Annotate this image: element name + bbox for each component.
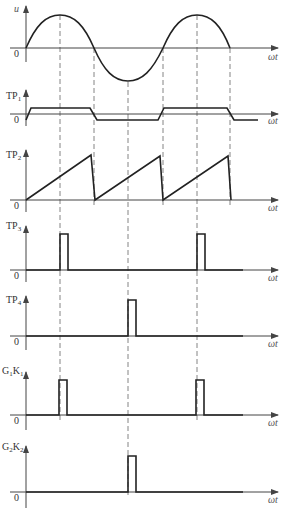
label-g1k1: G1K1: [2, 365, 24, 378]
label-g2k2: G2K2: [2, 441, 24, 454]
label-tp1: TP1: [6, 90, 22, 103]
x-axis-label: ωt: [268, 272, 278, 283]
label-tp4: TP4: [6, 294, 22, 307]
x-axis-label: ωt: [268, 417, 278, 428]
g2k2-pulse: [26, 456, 243, 492]
waveform-diagram: u 0 ωt TP1 0 ωt TP2 0 ωt TP3 0 ωt TP4 0 …: [0, 0, 286, 515]
origin-label: 0: [14, 415, 19, 426]
panel-tp4: TP4 0 ωt: [6, 294, 278, 350]
panel-u: u 0 ωt: [10, 3, 278, 81]
x-axis-label: ωt: [268, 494, 278, 505]
panel-tp1: TP1 0 ωt: [6, 90, 278, 126]
panel-tp3: TP3 0 ωt: [6, 220, 278, 283]
origin-label: 0: [14, 114, 19, 125]
x-axis-label: ωt: [268, 51, 278, 62]
origin-label: 0: [14, 270, 19, 281]
panel-g1k1: G1K1 0 ωt: [2, 365, 278, 430]
x-axis-label: ωt: [268, 115, 278, 126]
x-axis-label: ωt: [268, 338, 278, 349]
origin-label: 0: [14, 200, 19, 211]
tp2-sawtooth: [26, 155, 231, 200]
origin-label: 0: [14, 492, 19, 503]
label-u: u: [14, 3, 19, 14]
x-axis-label: ωt: [268, 202, 278, 213]
label-tp2: TP2: [6, 149, 22, 162]
tp3-pulses: [26, 234, 243, 270]
tp4-pulse: [26, 300, 243, 336]
origin-label: 0: [14, 48, 19, 59]
panel-tp2: TP2 0 ωt: [6, 149, 278, 213]
origin-label: 0: [14, 336, 19, 347]
label-tp3: TP3: [6, 220, 22, 233]
g1k1-pulses: [26, 380, 243, 415]
panel-g2k2: G2K2 0 ωt: [2, 441, 278, 508]
